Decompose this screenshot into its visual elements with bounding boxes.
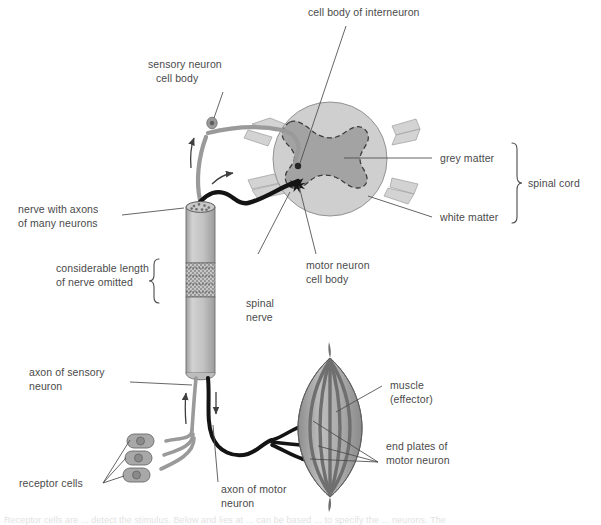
leader-lines <box>103 26 432 483</box>
label-end-plates-line2: motor neuron <box>386 454 450 468</box>
label-muscle-line1: muscle <box>390 379 424 393</box>
effector-muscle <box>298 342 362 512</box>
label-spinal-nerve-line2: nerve <box>246 311 273 325</box>
label-muscle-line2: (effector) <box>390 393 433 407</box>
nerve-bundle <box>186 202 215 380</box>
receptor-cell <box>125 451 152 465</box>
leader-axon-sensory <box>130 382 192 385</box>
label-cell-body-of-interneuron: cell body of interneuron <box>308 6 420 20</box>
receptor-cells <box>123 434 154 482</box>
label-axon-of-motor-neuron-line1: axon of motor <box>221 483 287 497</box>
label-sensory-neuron-cell-body-line1: sensory neuron <box>148 58 222 72</box>
label-nerve-with-axons-line1: nerve with axons <box>18 203 98 217</box>
nerve-cut-face <box>186 202 215 213</box>
leader-sensory-soma <box>214 92 223 118</box>
sensory-interneuron-synapse <box>295 163 301 169</box>
leader-nerve-axons <box>122 208 184 215</box>
label-axon-of-sensory-neuron-line1: axon of sensory <box>29 366 105 380</box>
label-axon-of-sensory-neuron-line2: neuron <box>29 380 62 394</box>
label-nerve-with-axons-line2: of many neurons <box>18 217 98 231</box>
label-considerable-length-line2: of nerve omitted <box>56 276 133 290</box>
label-grey-matter: grey matter <box>440 152 494 166</box>
label-spinal-cord: spinal cord <box>528 177 580 191</box>
label-end-plates-line1: end plates of <box>386 440 447 454</box>
arrow-motor-outflow <box>212 173 233 184</box>
bracket-nerve-omitted <box>149 259 159 303</box>
leader-spinal-nerve <box>258 192 290 254</box>
label-spinal-nerve-line1: spinal <box>246 297 274 311</box>
spinal-cord-cross-section <box>244 102 420 216</box>
receptor-cell <box>123 468 150 482</box>
label-white-matter: white matter <box>440 211 498 225</box>
label-sensory-neuron-cell-body-line2: cell body <box>156 72 198 86</box>
label-considerable-length-line1: considerable length <box>56 262 149 276</box>
clipped-caption-bottom: Receptor cells are ... detect the stimul… <box>4 515 446 525</box>
leader-axon-motor <box>213 425 218 482</box>
bracket-spinal-cord <box>512 143 522 223</box>
sensory-neuron-ascending-limb <box>198 137 206 200</box>
label-receptor-cells: receptor cells <box>19 477 83 491</box>
motor-axon-lower <box>208 378 272 455</box>
sensory-axon-lower <box>161 378 196 469</box>
arrow-up-sensory-top <box>191 138 194 168</box>
label-motor-neuron-cell-body-line1: motor neuron <box>306 259 370 273</box>
arrow-up-sensory-bottom <box>185 393 186 424</box>
sensory-neuron-soma <box>207 117 217 129</box>
label-axon-of-motor-neuron-line2: neuron <box>221 497 254 511</box>
receptor-cell <box>127 434 154 448</box>
label-motor-neuron-cell-body-line2: cell body <box>306 273 348 287</box>
